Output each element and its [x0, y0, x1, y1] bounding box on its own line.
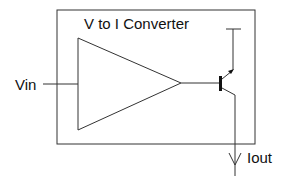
amplifier-triangle-icon	[78, 38, 181, 130]
diagram-title: V to I Converter	[84, 15, 189, 32]
output-label: Iout	[247, 149, 273, 166]
input-label: Vin	[15, 76, 36, 93]
v-to-i-converter-diagram: V to I Converter Vin Iout	[0, 0, 281, 184]
